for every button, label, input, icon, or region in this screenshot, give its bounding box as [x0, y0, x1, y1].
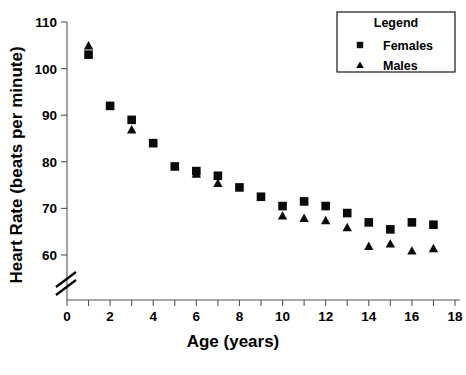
- series-females: [84, 50, 437, 233]
- axis-break-mark-lower: [56, 280, 76, 295]
- data-point-males-age-10: [278, 211, 287, 219]
- data-point-males-age-12: [321, 216, 330, 224]
- x-tick-label: 10: [275, 309, 290, 324]
- data-point-females-age-9: [257, 192, 266, 201]
- x-axis-title: Age (years): [187, 332, 280, 351]
- data-point-males-age-1: [84, 41, 93, 49]
- y-tick-label: 90: [42, 108, 57, 123]
- y-tick-label: 80: [42, 155, 57, 170]
- data-point-females-age-8: [235, 183, 244, 192]
- y-tick-label: 110: [35, 15, 57, 30]
- data-point-females-age-4: [149, 139, 158, 148]
- data-point-females-age-10: [278, 202, 287, 211]
- x-tick-label: 12: [318, 309, 333, 324]
- series-males: [84, 41, 438, 254]
- data-point-males-age-14: [364, 241, 373, 249]
- data-point-females-age-16: [408, 218, 417, 227]
- data-point-females-age-2: [106, 102, 115, 111]
- data-point-females-age-17: [429, 220, 438, 229]
- data-point-males-age-15: [386, 239, 395, 247]
- legend-label-females: Females: [383, 39, 433, 53]
- data-point-females-age-1: [84, 50, 93, 59]
- legend-marker-square: [357, 42, 363, 48]
- chart-figure: 60708090100110024681012141618Age (years)…: [0, 0, 466, 375]
- data-point-females-age-15: [386, 225, 395, 234]
- data-point-males-age-13: [343, 223, 352, 231]
- x-tick-label: 16: [404, 309, 420, 324]
- data-point-females-age-14: [364, 218, 373, 227]
- y-tick-label: 60: [42, 248, 57, 263]
- x-tick-label: 14: [361, 309, 377, 324]
- data-point-males-age-3: [127, 125, 136, 133]
- legend-label-males: Males: [383, 59, 418, 73]
- data-point-females-age-3: [127, 116, 136, 125]
- y-tick-label: 100: [34, 62, 57, 77]
- y-axis-title: Heart Rate (beats per minute): [7, 46, 26, 283]
- data-point-males-age-11: [299, 214, 308, 222]
- x-tick-label: 8: [236, 309, 244, 324]
- legend-title: Legend: [374, 16, 418, 30]
- x-tick-label: 0: [63, 309, 71, 324]
- x-tick-label: 6: [193, 309, 201, 324]
- y-tick-label: 70: [42, 201, 57, 216]
- axis-break-mark-upper: [56, 272, 76, 287]
- data-point-males-age-17: [429, 244, 438, 252]
- x-tick-label: 18: [447, 309, 463, 324]
- x-tick-label: 4: [149, 309, 157, 324]
- scatter-plot-svg: 60708090100110024681012141618Age (years)…: [0, 0, 466, 375]
- data-point-females-age-5: [170, 162, 179, 171]
- x-tick-label: 2: [106, 309, 114, 324]
- data-point-females-age-11: [300, 197, 309, 206]
- data-point-females-age-12: [321, 202, 330, 211]
- data-point-females-age-13: [343, 209, 352, 218]
- data-point-males-age-16: [407, 246, 416, 254]
